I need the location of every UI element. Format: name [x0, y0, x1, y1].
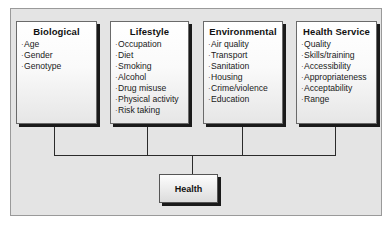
- factor-list: ·Quality ·Skills/training ·Accessibility…: [297, 39, 376, 105]
- list-item: ·Alcohol: [115, 72, 188, 83]
- box-title: Environmental: [204, 26, 282, 37]
- list-item: ·Gender: [21, 50, 96, 61]
- box-title: Biological: [17, 26, 96, 37]
- list-item: ·Quality: [301, 39, 376, 50]
- connector-health-service: [335, 127, 336, 156]
- list-item: ·Drug misuse: [115, 83, 188, 94]
- list-item: ·Air quality: [208, 39, 282, 50]
- box-health-service: Health Service ·Quality ·Skills/training…: [296, 21, 377, 124]
- list-item: ·Range: [301, 94, 376, 105]
- list-item: ·Appropriateness: [301, 72, 376, 83]
- health-box: Health: [159, 174, 218, 203]
- list-item: ·Education: [208, 94, 282, 105]
- connector-to-health: [192, 155, 193, 174]
- list-item: ·Smoking: [115, 61, 188, 72]
- list-item: ·Age: [21, 39, 96, 50]
- connector-environmental: [242, 127, 243, 156]
- list-item: ·Accessibility: [301, 61, 376, 72]
- list-item: ·Risk taking: [115, 105, 188, 116]
- list-item: ·Occupation: [115, 39, 188, 50]
- list-item: ·Transport: [208, 50, 282, 61]
- box-lifestyle: Lifestyle ·Occupation ·Diet ·Smoking ·Al…: [110, 21, 189, 124]
- factor-list: ·Occupation ·Diet ·Smoking ·Alcohol ·Dru…: [111, 39, 188, 116]
- box-title: Health Service: [297, 26, 376, 37]
- list-item: ·Sanitation: [208, 61, 282, 72]
- list-item: ·Acceptability: [301, 83, 376, 94]
- box-environmental: Environmental ·Air quality ·Transport ·S…: [203, 21, 283, 124]
- list-item: ·Crime/violence: [208, 83, 282, 94]
- list-item: ·Diet: [115, 50, 188, 61]
- factor-list: ·Air quality ·Transport ·Sanitation ·Hou…: [204, 39, 282, 105]
- list-item: ·Housing: [208, 72, 282, 83]
- connector-horizontal: [54, 155, 336, 156]
- box-biological: Biological ·Age ·Gender ·Genotype: [16, 21, 97, 124]
- factor-list: ·Age ·Gender ·Genotype: [17, 39, 96, 72]
- box-title: Lifestyle: [111, 26, 188, 37]
- connector-lifestyle: [147, 127, 148, 156]
- list-item: ·Genotype: [21, 61, 96, 72]
- list-item: ·Skills/training: [301, 50, 376, 61]
- list-item: ·Physical activity: [115, 94, 188, 105]
- connector-biological: [54, 127, 55, 156]
